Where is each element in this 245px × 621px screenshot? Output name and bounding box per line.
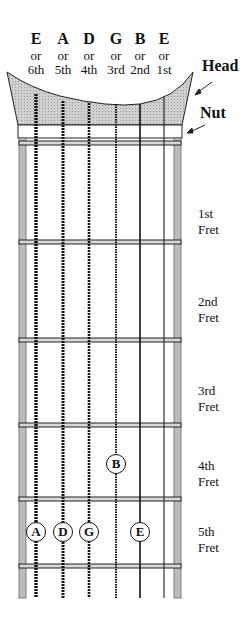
string-or: or xyxy=(76,49,102,63)
string-ordinal: 6th xyxy=(21,63,51,77)
fret-ordinal: 2nd xyxy=(198,294,219,310)
string-ordinal: 1st xyxy=(149,63,179,77)
string-or: or xyxy=(127,49,153,63)
fret-ordinal: 3rd xyxy=(198,383,219,399)
string-name: E xyxy=(151,30,177,48)
string-or: or xyxy=(23,49,49,63)
fret-label-3: 3rd Fret xyxy=(198,383,219,415)
string-name: E xyxy=(23,30,49,48)
note-marker-g: G xyxy=(79,522,99,542)
string-name: B xyxy=(127,30,153,48)
fret-ordinal: 4th xyxy=(198,458,219,474)
board-right-edge xyxy=(174,138,181,598)
fret-word: Fret xyxy=(198,310,219,326)
fret-word: Fret xyxy=(198,399,219,415)
fret-label-5: 5th Fret xyxy=(198,524,219,556)
fret-word: Fret xyxy=(198,540,219,556)
head-label: Head xyxy=(202,57,238,75)
note-marker-e: E xyxy=(130,522,150,542)
fret-ordinal: 1st xyxy=(198,206,219,222)
string-name: G xyxy=(103,30,129,48)
note-marker-a: A xyxy=(26,522,46,542)
nut-label: Nut xyxy=(200,104,226,122)
string-or: or xyxy=(103,49,129,63)
string-or: or xyxy=(151,49,177,63)
string-name: D xyxy=(76,30,102,48)
nut xyxy=(18,125,182,138)
note-marker-d: D xyxy=(53,522,73,542)
board-left-edge xyxy=(19,138,26,598)
string-name: A xyxy=(50,30,76,48)
fret-label-2: 2nd Fret xyxy=(198,294,219,326)
fret-word: Fret xyxy=(198,222,219,238)
fret-label-1: 1st Fret xyxy=(198,206,219,238)
string-or: or xyxy=(50,49,76,63)
fret-ordinal: 5th xyxy=(198,524,219,540)
fret-label-4: 4th Fret xyxy=(198,458,219,490)
string-ordinal: 4th xyxy=(74,63,104,77)
fret-word: Fret xyxy=(198,474,219,490)
note-marker-b: B xyxy=(106,454,126,474)
fret-wires xyxy=(19,141,181,568)
